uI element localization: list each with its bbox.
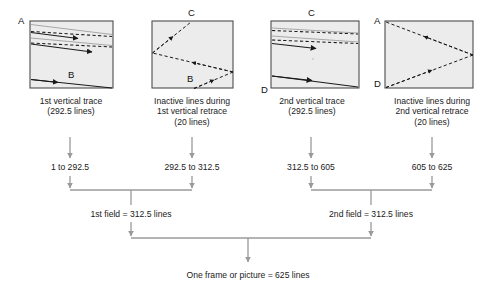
panel-4-caption: Inactive lines during 2nd vertical retra… <box>394 96 470 127</box>
panel-4-caption-line-3: (20 lines) <box>394 117 470 127</box>
panel-2-corner-label-c: C <box>188 8 195 18</box>
panel-2-caption-line-3: (20 lines) <box>154 117 230 127</box>
panel-3-caption: 2nd vertical trace (292.5 lines) <box>279 96 344 117</box>
line-range-label-3: 312.5 to 605 <box>287 162 335 172</box>
panel-1-caption-line-2: (292.5 lines) <box>40 106 103 116</box>
panel-1-corner-label-a: A <box>18 16 24 26</box>
panel-4-caption-line-2: 2nd vertical retrace <box>394 106 470 116</box>
panel-4-corner-label-d: D <box>374 79 381 89</box>
panel-1-caption: 1st vertical trace (292.5 lines) <box>40 96 103 117</box>
line-range-label-1: 1 to 292.5 <box>51 162 89 172</box>
panel-2-caption-line-2: 1st vertical retrace <box>154 106 230 116</box>
panel-1-caption-line-1: 1st vertical trace <box>40 96 103 106</box>
panel-2-caption: Inactive lines during 1st vertical retra… <box>154 96 230 127</box>
panel-2-corner-label-b: B <box>187 74 193 84</box>
panel-3-caption-line-1: 2nd vertical trace <box>279 96 344 106</box>
panel-1-corner-label-b: B <box>68 70 74 80</box>
flowchart-connectors-layer <box>0 0 495 296</box>
line-range-label-2: 292.5 to 312.5 <box>165 162 220 172</box>
panel-4-corner-label-a: A <box>374 16 380 26</box>
diagram-canvas: A B C B C D A D 1st vertical trace (292.… <box>0 0 495 296</box>
panel-4-caption-line-1: Inactive lines during <box>394 96 470 106</box>
panel-3-corner-label-d: D <box>261 85 268 95</box>
line-range-label-4: 605 to 625 <box>412 162 453 172</box>
field-label-1st: 1st field = 312.5 lines <box>91 209 172 219</box>
panel-2-caption-line-1: Inactive lines during <box>154 96 230 106</box>
panel-3-caption-line-2: (292.5 lines) <box>279 106 344 116</box>
panel-3-corner-label-c: C <box>308 8 315 18</box>
field-label-2nd: 2nd field = 312.5 lines <box>329 209 413 219</box>
frame-total-label: One frame or picture = 625 lines <box>186 270 309 280</box>
